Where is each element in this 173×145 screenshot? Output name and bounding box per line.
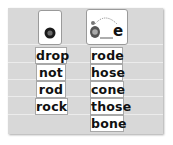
silent-e-letter: e [113,22,123,40]
word-card-rod[interactable]: rod [36,81,66,98]
short-o-header-card [38,10,62,45]
word-card-cone[interactable]: cone [90,81,124,98]
ball-icon [39,11,61,44]
row-divider [8,79,163,80]
row-divider [8,44,163,45]
row-divider [8,62,163,63]
word-card-rode[interactable]: rode [90,47,123,64]
row-divider [8,96,163,97]
word-card-bone[interactable]: bone [90,115,124,132]
word-card-those[interactable]: those [90,98,124,115]
word-card-not[interactable]: not [36,64,66,81]
word-card-hose[interactable]: hose [90,64,123,81]
word-card-drop[interactable]: drop [35,47,67,64]
long-o-header-card: e [86,9,128,45]
word-sort-panel: e drop not rod rock rode hose cone those… [8,8,163,134]
row-divider [8,114,163,115]
word-card-rock[interactable]: rock [35,98,68,115]
